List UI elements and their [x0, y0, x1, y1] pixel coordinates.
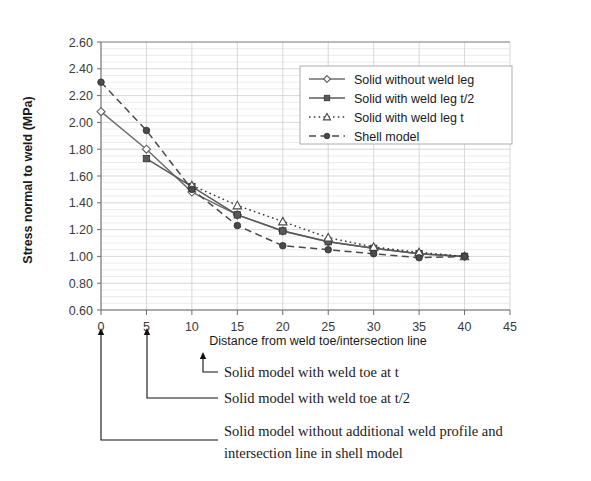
- data-point-marker-circle: [461, 253, 468, 260]
- x-tick-label: 35: [412, 320, 426, 334]
- x-tick-label: 15: [230, 320, 244, 334]
- data-point-marker-triangle: [233, 201, 241, 209]
- y-tick-label: 0.60: [69, 304, 93, 318]
- y-tick-label: 1.40: [69, 196, 93, 210]
- data-point-marker-circle: [279, 242, 286, 249]
- y-tick-label: 2.20: [69, 89, 93, 103]
- y-axis-title: Stress normal to weld (MPa): [21, 96, 35, 263]
- data-point-marker-square: [324, 95, 329, 100]
- legend-label: Solid without weld leg: [354, 73, 474, 87]
- data-point-marker-circle: [234, 222, 241, 229]
- data-point-marker-circle: [324, 133, 330, 139]
- x-axis-title: Distance from weld toe/intersection line: [209, 334, 427, 348]
- data-point-marker-square: [234, 212, 240, 218]
- annotation-label: intersection line in shell model: [224, 445, 403, 461]
- data-point-marker-circle: [370, 250, 377, 257]
- data-point-marker-circle: [189, 186, 196, 193]
- data-point-marker-circle: [325, 246, 332, 253]
- y-tick-label: 2.40: [69, 62, 93, 76]
- x-tick-label: 25: [321, 320, 335, 334]
- stress-distance-line-chart: 0.600.801.001.201.401.601.802.002.202.40…: [0, 0, 591, 481]
- data-point-marker-square: [143, 155, 149, 161]
- data-point-marker-triangle: [279, 217, 287, 225]
- y-tick-label: 1.20: [69, 223, 93, 237]
- legend-label: Solid with weld leg t: [354, 111, 464, 125]
- annotation-label: Solid model without additional weld prof…: [224, 423, 503, 439]
- series-line: [146, 159, 464, 257]
- leader-line: [101, 335, 218, 440]
- data-point-marker-circle: [416, 254, 423, 261]
- x-tick-label: 20: [276, 320, 290, 334]
- y-tick-label: 1.00: [69, 250, 93, 264]
- y-tick-label: 0.80: [69, 277, 93, 291]
- arrow-head-icon: [200, 352, 206, 359]
- data-point-marker-circle: [143, 127, 150, 134]
- y-axis-ticks: 0.600.801.001.201.401.601.802.002.202.40…: [69, 36, 101, 318]
- annotation-label: Solid model with weld toe at t: [224, 364, 399, 380]
- x-tick-label: 30: [367, 320, 381, 334]
- chart-figure: 0.600.801.001.201.401.601.802.002.202.40…: [0, 0, 591, 481]
- chart-legend: Solid without weld legSolid with weld le…: [300, 66, 512, 144]
- leader-line: [203, 359, 218, 372]
- legend-label: Shell model: [354, 130, 419, 144]
- y-tick-label: 2.00: [69, 116, 93, 130]
- y-tick-label: 1.60: [69, 170, 93, 184]
- x-tick-label: 40: [458, 320, 472, 334]
- data-point-marker-square: [280, 228, 286, 234]
- callout-weld-toe-t: Solid model with weld toe at t: [200, 352, 399, 380]
- data-point-marker-circle: [98, 79, 105, 86]
- data-point-marker-triangle: [324, 233, 332, 241]
- x-axis-ticks: 051015202530354045: [98, 310, 517, 334]
- y-tick-label: 2.60: [69, 36, 93, 50]
- annotation-label: Solid model with weld toe at t/2: [224, 390, 410, 406]
- legend-label: Solid with weld leg t/2: [354, 92, 474, 106]
- x-tick-label: 10: [185, 320, 199, 334]
- x-tick-label: 45: [503, 320, 517, 334]
- leader-line: [147, 335, 218, 398]
- y-tick-label: 1.80: [69, 143, 93, 157]
